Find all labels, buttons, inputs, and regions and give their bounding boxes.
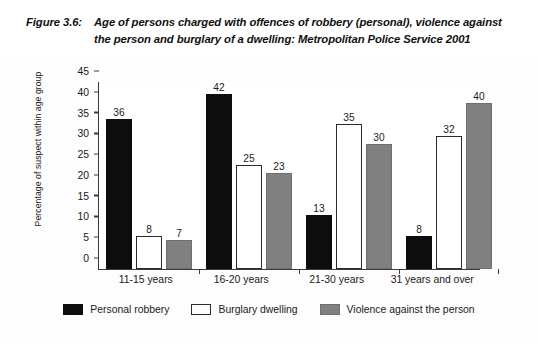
bar-chart: Percentage of suspect within age group 0… (0, 58, 538, 344)
figure-number: Figure 3.6: (26, 14, 94, 31)
bar-slot: 8 (136, 82, 162, 269)
bar-value-label: 13 (313, 203, 324, 214)
bar-slot: 36 (106, 82, 132, 269)
bar[interactable]: 36 (106, 119, 132, 269)
y-axis-tick: 40 (77, 86, 99, 97)
chart-legend: Personal robberyBurglary dwellingViolenc… (0, 304, 538, 315)
bar-value-label: 23 (273, 161, 284, 172)
bar-value-label: 32 (443, 124, 454, 135)
y-axis-tick-label: 5 (83, 232, 94, 243)
y-axis-tick-label: 20 (77, 169, 94, 180)
figure-caption: Figure 3.6: Age of persons charged with … (26, 14, 512, 48)
y-axis-tick: 35 (77, 107, 99, 118)
y-axis-tick: 30 (77, 128, 99, 139)
bar-slot: 8 (406, 82, 432, 269)
y-axis-tick: 45 (77, 66, 99, 77)
bar-value-label: 36 (113, 107, 124, 118)
legend-label: Personal robbery (90, 304, 169, 315)
bar[interactable]: 25 (236, 165, 262, 269)
bar-slot: 13 (306, 82, 332, 269)
bar-group: 3687 (99, 82, 199, 269)
bar-slot: 30 (366, 82, 392, 269)
bar[interactable]: 42 (206, 94, 232, 269)
plot-wrapper: 051015202530354045 368742252313353083240 (98, 82, 480, 270)
legend-label: Violence against the person (347, 304, 475, 315)
x-axis-category-label: 21-30 years (289, 274, 385, 285)
legend-label: Burglary dwelling (218, 304, 297, 315)
bar[interactable]: 35 (336, 124, 362, 269)
y-axis-tick-label: 0 (83, 253, 94, 264)
bar-value-label: 35 (343, 112, 354, 123)
x-axis-category-label: 11-15 years (98, 274, 194, 285)
bar[interactable]: 7 (166, 240, 192, 269)
y-axis-tick-label: 35 (77, 107, 94, 118)
bar-groups: 368742252313353083240 (99, 82, 480, 269)
bar-slot: 7 (166, 82, 192, 269)
x-axis-category-labels: 11-15 years16-20 years21-30 years31 year… (98, 274, 480, 285)
bar-slot: 25 (236, 82, 262, 269)
bar-group: 83240 (399, 82, 499, 269)
bar[interactable]: 32 (436, 136, 462, 269)
y-axis-tick-label: 30 (77, 128, 94, 139)
bar-slot: 42 (206, 82, 232, 269)
y-axis-tick-label: 25 (77, 149, 94, 160)
legend-item[interactable]: Personal robbery (63, 304, 169, 315)
x-axis-category-label: 16-20 years (194, 274, 290, 285)
bar-value-label: 25 (243, 153, 254, 164)
y-axis-tick: 0 (83, 253, 99, 264)
x-axis-category-label: 31 years and over (385, 274, 481, 285)
y-axis-tick-label: 10 (77, 211, 94, 222)
bar-value-label: 8 (146, 224, 152, 235)
bar-slot: 35 (336, 82, 362, 269)
bar-value-label: 40 (473, 91, 484, 102)
y-axis-tick-label: 15 (77, 190, 94, 201)
bar-slot: 23 (266, 82, 292, 269)
y-axis-tick-label: 40 (77, 86, 94, 97)
bar-slot: 40 (466, 82, 492, 269)
bar-value-label: 30 (373, 132, 384, 143)
y-axis-title: Percentage of suspect within age group (33, 54, 43, 244)
y-axis-tick-label: 45 (77, 66, 94, 77)
x-axis-tick-mark (498, 269, 499, 274)
bar-value-label: 8 (416, 224, 422, 235)
legend-swatch (63, 304, 83, 315)
figure-title: Age of persons charged with offences of … (94, 14, 512, 48)
y-axis-tick: 10 (77, 211, 99, 222)
plot-area: 051015202530354045 368742252313353083240 (98, 82, 480, 270)
bar[interactable]: 40 (466, 103, 492, 269)
legend-swatch (191, 304, 211, 315)
bar-value-label: 7 (176, 228, 182, 239)
bar-slot: 32 (436, 82, 462, 269)
bar-value-label: 42 (213, 82, 224, 93)
bar[interactable]: 23 (266, 173, 292, 269)
bar[interactable]: 30 (366, 144, 392, 269)
bar[interactable]: 13 (306, 215, 332, 269)
y-axis-tick: 20 (77, 169, 99, 180)
bar-group: 422523 (199, 82, 299, 269)
y-axis-tick: 5 (83, 232, 99, 243)
bar[interactable]: 8 (136, 236, 162, 269)
y-axis-tick: 15 (77, 190, 99, 201)
legend-item[interactable]: Burglary dwelling (191, 304, 297, 315)
legend-item[interactable]: Violence against the person (320, 304, 475, 315)
y-axis-tick-mark (94, 70, 99, 71)
y-axis-tick: 25 (77, 149, 99, 160)
bar-group: 133530 (299, 82, 399, 269)
legend-swatch (320, 304, 340, 315)
bar[interactable]: 8 (406, 236, 432, 269)
